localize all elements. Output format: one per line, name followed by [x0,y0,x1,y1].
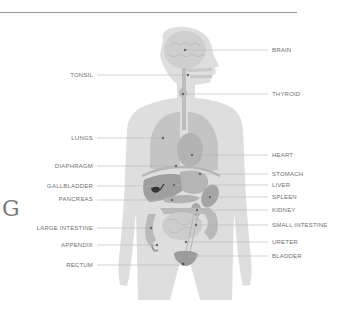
label-stomach: STOMACH [272,171,303,177]
trachea-organ [182,68,186,130]
label-bladder: BLADDER [272,253,302,259]
label-heart: HEART [272,152,293,158]
label-liver: LIVER [272,182,290,188]
body-diagram [0,0,347,312]
label-ureter: URETER [272,239,298,245]
label-pancreas: PANCREAS [59,196,93,202]
label-small-intestine: SMALL INTESTINE [272,222,327,228]
label-spleen: SPLEEN [272,194,297,200]
label-appendix: APPENDIX [61,242,93,248]
label-rectum: RECTUM [66,262,93,268]
label-kidney: KIDNEY [272,207,296,213]
label-diaphragm: DIAPHRAGM [55,163,93,169]
label-lungs: LUNGS [71,135,93,141]
label-tonsil: TONSIL [70,72,93,78]
label-gallbladder: GALLBLADDER [47,183,93,189]
label-thyroid: THYROID [272,91,300,97]
heart-organ [177,133,203,167]
label-large-intestine: LARGE INTESTINE [37,225,93,231]
label-brain: BRAIN [272,47,291,53]
